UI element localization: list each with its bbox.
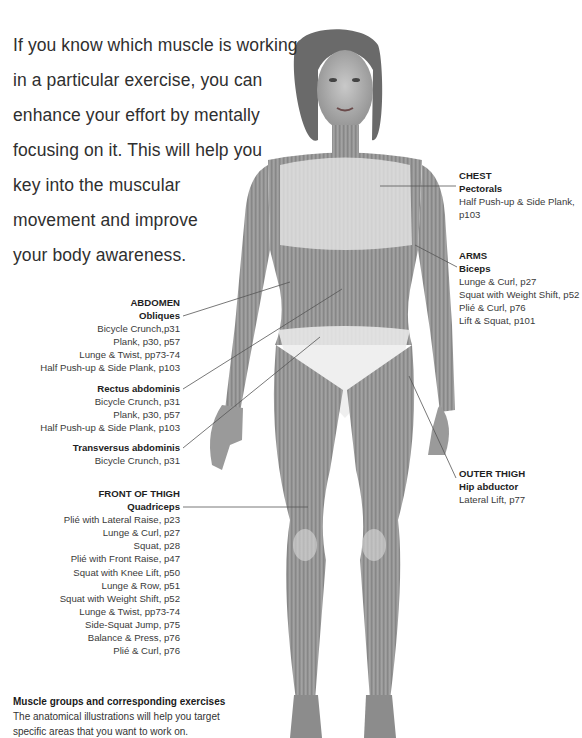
label-front-thigh: FRONT OF THIGH Quadriceps Plié with Late… bbox=[60, 487, 180, 657]
label-abdomen-transversus: Transversus abdominis Bicycle Crunch, p3… bbox=[73, 441, 180, 467]
exercise-item: Plié & Curl, p76 bbox=[60, 644, 180, 657]
exercise-item: Lunge & Curl, p27 bbox=[60, 526, 180, 539]
muscle-name: Obliques bbox=[40, 309, 180, 322]
exercise-item: Half Push-up & Side Plank, bbox=[459, 195, 575, 208]
muscle-name: Pectorals bbox=[459, 182, 575, 195]
exercise-item: Lateral Lift, p77 bbox=[459, 493, 525, 506]
caption-text: The anatomical illustrations will help y… bbox=[13, 709, 293, 724]
region-heading: OUTER THIGH bbox=[459, 467, 525, 480]
exercise-item: Squat, p28 bbox=[60, 539, 180, 552]
exercise-item: Lunge & Curl, p27 bbox=[459, 275, 579, 288]
exercise-item: Plank, p30, p57 bbox=[40, 335, 180, 348]
exercise-item: Bicycle Crunch, p31 bbox=[73, 454, 180, 467]
exercise-item: Bicycle Crunch, p31 bbox=[40, 395, 180, 408]
intro-paragraph: If you know which muscle is working in a… bbox=[13, 28, 313, 273]
intro-line: focusing on it. This will help you bbox=[13, 133, 313, 168]
intro-line: your body awareness. bbox=[13, 238, 313, 273]
exercise-item: Balance & Press, p76 bbox=[60, 631, 180, 644]
right-arm bbox=[418, 165, 455, 412]
label-outer-thigh: OUTER THIGH Hip abductor Lateral Lift, p… bbox=[459, 467, 525, 506]
exercise-item: p103 bbox=[459, 208, 575, 221]
caption-title: Muscle groups and corresponding exercise… bbox=[13, 694, 293, 709]
exercise-item: Squat with Weight Shift, p52 bbox=[459, 288, 579, 301]
exercise-item: Lunge & Twist, pp73-74 bbox=[40, 348, 180, 361]
region-heading: FRONT OF THIGH bbox=[60, 487, 180, 500]
muscle-name: Biceps bbox=[459, 262, 579, 275]
exercise-item: Bicycle Crunch,p31 bbox=[40, 322, 180, 335]
region-heading: CHEST bbox=[459, 169, 575, 182]
left-leg bbox=[274, 345, 343, 700]
exercise-item: Plié with Lateral Raise, p23 bbox=[60, 513, 180, 526]
exercise-item: Side-Squat Jump, p75 bbox=[60, 618, 180, 631]
exercise-item: Squat with Weight Shift, p52 bbox=[60, 592, 180, 605]
intro-line: key into the muscular bbox=[13, 168, 313, 203]
label-chest: CHEST Pectorals Half Push-up & Side Plan… bbox=[459, 169, 575, 221]
intro-line: in a particular exercise, you can bbox=[13, 63, 313, 98]
exercise-item: Plank, p30, p57 bbox=[40, 408, 180, 421]
exercise-item: Lunge & Row, p51 bbox=[60, 579, 180, 592]
intro-line: movement and improve bbox=[13, 203, 313, 238]
right-leg bbox=[347, 345, 414, 700]
muscle-name: Transversus abdominis bbox=[73, 441, 180, 454]
exercise-item: Half Push-up & Side Plank, p103 bbox=[40, 421, 180, 434]
intro-line: enhance your effort by mentally bbox=[13, 98, 313, 133]
label-abdomen-obliques: ABDOMEN Obliques Bicycle Crunch,p31 Plan… bbox=[40, 296, 180, 375]
intro-line: If you know which muscle is working bbox=[13, 28, 313, 63]
muscle-name: Hip abductor bbox=[459, 480, 525, 493]
exercise-item: Lunge & Twist, pp73-74 bbox=[60, 605, 180, 618]
exercise-item: Lift & Squat, p101 bbox=[459, 314, 579, 327]
muscle-name: Quadriceps bbox=[60, 500, 180, 513]
figure-caption: Muscle groups and corresponding exercise… bbox=[13, 694, 293, 738]
exercise-item: Half Push-up & Side Plank, p103 bbox=[40, 361, 180, 374]
region-heading: ARMS bbox=[459, 249, 579, 262]
exercise-item: Plié with Front Raise, p47 bbox=[60, 552, 180, 565]
muscle-name: Rectus abdominis bbox=[40, 382, 180, 395]
face bbox=[317, 50, 373, 130]
label-arms: ARMS Biceps Lunge & Curl, p27 Squat with… bbox=[459, 249, 579, 328]
exercise-item: Squat with Knee Lift, p50 bbox=[60, 566, 180, 579]
caption-text: specific areas that you want to work on. bbox=[13, 724, 293, 738]
label-abdomen-rectus: Rectus abdominis Bicycle Crunch, p31 Pla… bbox=[40, 382, 180, 434]
exercise-item: Plié & Curl, p76 bbox=[459, 301, 579, 314]
region-heading: ABDOMEN bbox=[40, 296, 180, 309]
